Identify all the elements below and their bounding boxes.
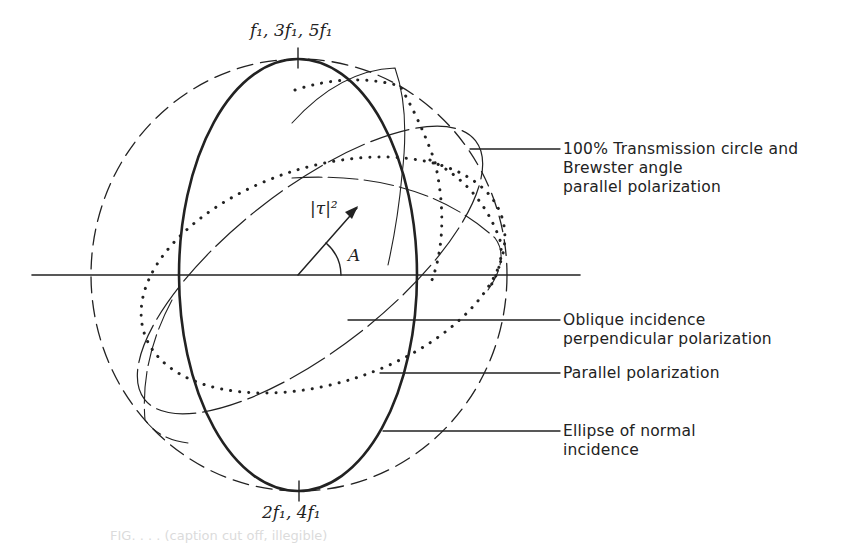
arrowhead-icon (345, 206, 358, 219)
diagram-canvas (0, 0, 856, 546)
callout-transmission: 100% Transmission circle and Brewster an… (563, 140, 798, 197)
figure-caption: FIG. . . . (caption cut off, illegible) (110, 528, 750, 546)
vector-label: |τ|² (310, 198, 338, 218)
callout-parallel: Parallel polarization (563, 364, 720, 383)
bottom-frequency-label: 2f₁, 4f₁ (262, 502, 321, 522)
brewster-arc-lower (292, 177, 501, 290)
oblique-incidence-curve (95, 78, 524, 463)
angle-arc (326, 243, 341, 275)
angle-label: A (348, 245, 360, 265)
callout-oblique: Oblique incidence perpendicular polariza… (563, 311, 772, 349)
top-frequency-label: f₁, 3f₁, 5f₁ (250, 20, 333, 40)
callout-normal: Ellipse of normal incidence (563, 422, 696, 460)
diagram: f₁, 3f₁, 5f₁ 2f₁, 4f₁ |τ|² A 100% Transm… (0, 0, 856, 546)
brewster-arc (292, 68, 405, 265)
parallel-dotted-top (295, 80, 442, 280)
